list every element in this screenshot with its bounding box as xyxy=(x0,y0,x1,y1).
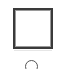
square-shape-label xyxy=(15,10,16,11)
circle-shape-label xyxy=(26,61,27,62)
circle-shape-icon[interactable] xyxy=(25,60,38,69)
square-shape-icon[interactable] xyxy=(13,8,53,49)
shape-palette xyxy=(0,0,61,69)
divider xyxy=(14,50,52,51)
